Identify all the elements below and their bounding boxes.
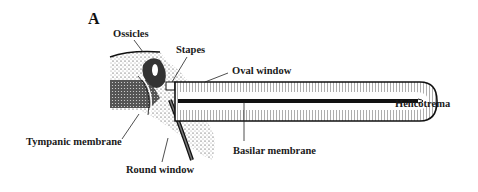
label-tympanic-membrane: Tympanic membrane: [26, 137, 122, 148]
label-ossicles: Ossicles: [113, 29, 149, 40]
label-stapes: Stapes: [176, 45, 205, 56]
label-basilar-membrane: Basilar membrane: [233, 146, 316, 157]
label-helicotrema: Helicotrema: [395, 99, 450, 110]
label-round-window: Round window: [126, 165, 194, 176]
panel-label: A: [88, 10, 100, 28]
cochlea-diagram: A Ossicles Stapes Oval window Helicotrem…: [0, 0, 478, 192]
cochlea-illustration: [0, 0, 478, 192]
basilar-membrane-shape: [178, 99, 418, 103]
label-oval-window: Oval window: [232, 66, 291, 77]
